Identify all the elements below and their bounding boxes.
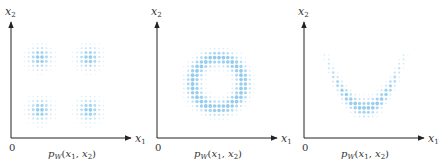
density-dot (235, 78, 238, 81)
density-dot (337, 72, 338, 73)
density-dot (183, 79, 185, 81)
density-dot (249, 96, 251, 98)
density-dot (41, 117, 43, 119)
density-dot (390, 98, 391, 99)
density-dot (24, 114, 25, 115)
density-dot (223, 70, 224, 71)
density-dot (249, 92, 251, 94)
density-dot (223, 119, 224, 120)
density-dot (200, 60, 204, 64)
density-dot (85, 43, 86, 44)
density-dot (76, 52, 78, 54)
density-dot (84, 108, 88, 112)
density-dot (195, 87, 198, 90)
density-dot (89, 100, 91, 102)
density-dot (191, 91, 195, 95)
density-dot (195, 100, 198, 103)
density-dot (85, 69, 87, 71)
density-dot (195, 78, 198, 81)
density-figure: x2 x1 0 pW(x1, x2) x2 x1 0 pW(x1, x2) x2… (0, 0, 442, 166)
density-dot (235, 74, 238, 77)
density-dot (249, 101, 250, 102)
density-dot (85, 127, 86, 128)
density-dot (218, 65, 220, 67)
density-dot (381, 85, 382, 86)
density-dot (227, 114, 229, 116)
density-dot (50, 122, 51, 123)
density-dot (398, 72, 400, 74)
density-dot (41, 100, 43, 102)
density-dot (210, 92, 211, 93)
density-dot (84, 55, 88, 59)
density-dot (371, 111, 374, 114)
panel-u-shape: x2 x1 0 pW(x1, x2) (298, 5, 439, 161)
density-dot (89, 51, 92, 54)
density-dot (376, 94, 378, 96)
density-dot (384, 93, 387, 96)
density-dot (50, 100, 51, 101)
density-dot (90, 69, 92, 71)
density-dot (50, 109, 52, 111)
density-dot (37, 47, 39, 49)
density-dot (36, 100, 38, 102)
density-dot (213, 104, 217, 108)
density-dot (41, 96, 43, 98)
density-dot (200, 91, 203, 94)
density-dot (89, 108, 93, 112)
density-dot (94, 47, 96, 49)
density-dot (235, 83, 237, 85)
density-dot (245, 61, 247, 63)
density-dot (99, 70, 100, 71)
density-dot (187, 66, 189, 68)
density-dot (222, 52, 225, 55)
density-dot (191, 78, 195, 82)
density-dot (362, 102, 365, 105)
density-dot (24, 109, 25, 110)
density-dot (195, 65, 199, 69)
density-dot (36, 55, 40, 59)
density-dot (72, 52, 73, 53)
density-dot (32, 100, 34, 102)
density-dot (336, 76, 338, 78)
density-dot (254, 79, 255, 80)
density-dot (254, 75, 255, 76)
density-dot (32, 122, 33, 123)
density-dot (28, 118, 29, 119)
density-dot (239, 91, 243, 95)
density-dot (36, 51, 39, 54)
density-dot (72, 56, 73, 57)
density-dot (196, 110, 198, 112)
density-dot (231, 56, 234, 59)
density-dot (183, 83, 185, 85)
density-dot (345, 102, 347, 104)
density-dot (205, 114, 207, 116)
density-dot (328, 54, 329, 55)
density-dot (205, 83, 206, 84)
density-dot (223, 96, 225, 98)
density-dot (55, 114, 56, 115)
density-dot (191, 69, 194, 72)
density-dot (28, 70, 29, 71)
density-dot (235, 56, 237, 58)
density-dot (332, 76, 335, 79)
density-dot (45, 104, 48, 107)
density-dot (226, 109, 229, 112)
density-dot (341, 76, 342, 77)
density-dot (399, 81, 400, 82)
density-dot (89, 113, 92, 116)
density-dot (24, 56, 25, 57)
density-dot (235, 65, 239, 69)
density-dot (187, 74, 190, 77)
density-dot (192, 110, 193, 111)
density-dot (32, 69, 34, 71)
density-dot (45, 108, 48, 111)
density-dot (354, 94, 356, 96)
density-dot (214, 65, 216, 67)
density-dot (239, 82, 243, 86)
density-dot (345, 89, 348, 92)
density-dot (244, 96, 247, 99)
density-dot (98, 100, 100, 102)
density-dot (346, 107, 347, 108)
density-dot (37, 74, 38, 75)
density-dot (89, 55, 93, 59)
